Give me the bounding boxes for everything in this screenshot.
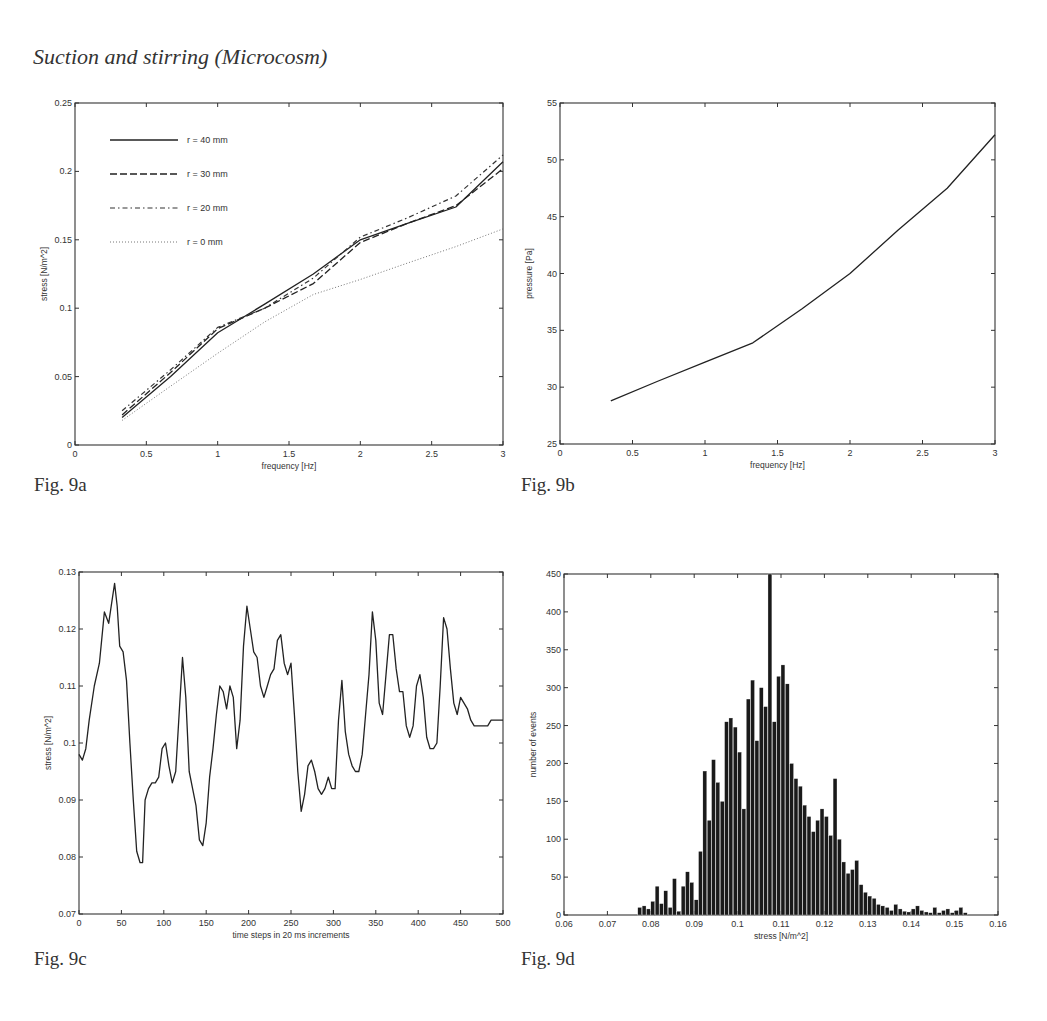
x-tick-label: 0.13: [859, 919, 877, 929]
figure-caption-9a: Fig. 9a: [34, 474, 87, 496]
y-tick-label: 350: [546, 645, 561, 655]
x-tick-label: 0.06: [555, 919, 573, 929]
figure-caption-9c: Fig. 9c: [34, 948, 87, 970]
x-tick-label: 0.07: [599, 919, 617, 929]
x-tick-label: 0.09: [685, 919, 703, 929]
figure-caption-9d: Fig. 9d: [521, 948, 575, 970]
x-tick-label: 0.08: [642, 919, 660, 929]
x-tick-label: 0.1: [731, 919, 744, 929]
histogram-bars: [638, 574, 967, 915]
y-axis-title: number of events: [528, 712, 538, 778]
x-tick-label: 0.16: [989, 919, 1007, 929]
y-tick-label: 250: [546, 721, 561, 731]
x-tick-label: 0.14: [902, 919, 920, 929]
figure-caption-9b: Fig. 9b: [521, 474, 575, 496]
chart-fig9d-stress-histogram: 0.060.070.080.090.10.110.120.130.140.150…: [0, 0, 1047, 1021]
x-axis-title: stress [N/m^2]: [754, 931, 808, 941]
y-tick-label: 450: [546, 569, 561, 579]
x-tick-label: 0.12: [816, 919, 834, 929]
y-tick-label: 50: [551, 872, 561, 882]
x-tick-label: 0.15: [946, 919, 964, 929]
y-tick-label: 150: [546, 796, 561, 806]
y-tick-label: 200: [546, 758, 561, 768]
y-tick-label: 0: [556, 910, 561, 920]
y-tick-label: 300: [546, 683, 561, 693]
y-tick-label: 400: [546, 607, 561, 617]
y-tick-label: 100: [546, 834, 561, 844]
x-tick-label: 0.11: [773, 919, 790, 929]
